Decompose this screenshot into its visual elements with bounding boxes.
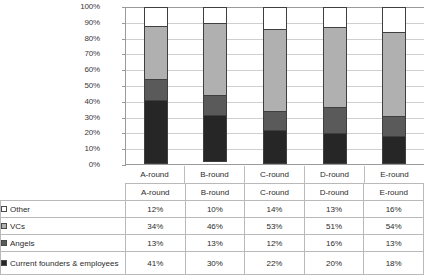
table-header-corner (1, 184, 126, 201)
table-header-e-round: E-round (364, 184, 424, 201)
y-axis-tick-0: 0% (72, 165, 100, 173)
x-axis-label-c-round: C-round (245, 166, 305, 183)
table-cell-value: 46% (185, 218, 245, 235)
bar-segment[interactable] (382, 136, 406, 164)
data-table: A-roundB-roundC-roundD-roundE-roundOther… (0, 183, 424, 275)
legend-swatch-icon (1, 260, 7, 266)
y-axis-tick-40: 40% (72, 102, 100, 110)
y-axis-tick-100: 100% (72, 7, 100, 15)
stacked-bar[interactable] (263, 7, 287, 164)
legend-label-text: Other (10, 205, 30, 214)
bar-segment[interactable] (382, 116, 406, 136)
table-cell-value: 51% (304, 218, 364, 235)
table-cell-value: 12% (245, 235, 305, 252)
y-axis-tick-60: 60% (72, 70, 100, 78)
x-axis-label-b-round: B-round (185, 166, 245, 183)
legend-row-label: Other (1, 201, 126, 218)
bar-segment[interactable] (382, 32, 406, 116)
bar-segment[interactable] (203, 115, 227, 162)
table-cell-value: 41% (126, 252, 186, 275)
bar-segment[interactable] (382, 7, 406, 32)
x-axis-label-d-round: D-round (305, 166, 365, 183)
x-axis-label-e-round: E-round (365, 166, 424, 183)
table-row: Angels13%13%12%16%13% (1, 235, 424, 252)
bar-slot (245, 7, 305, 164)
bar-slot (305, 7, 365, 164)
table-cell-value: 13% (304, 201, 364, 218)
bar-segment[interactable] (263, 130, 287, 164)
bar-series-container (126, 7, 424, 164)
table-header-c-round: C-round (245, 184, 305, 201)
bar-segment[interactable] (144, 26, 168, 79)
y-axis-tick-50: 50% (72, 86, 100, 94)
table-cell-value: 13% (185, 235, 245, 252)
stacked-bar[interactable] (382, 7, 406, 164)
bar-slot (126, 7, 186, 164)
legend-swatch-icon (1, 223, 7, 229)
bar-segment[interactable] (323, 27, 347, 107)
bar-segment[interactable] (323, 107, 347, 132)
table-cell-value: 53% (245, 218, 305, 235)
legend-label-text: VCs (10, 222, 25, 231)
legend-row-label: Current founders & employees (1, 252, 126, 275)
y-axis-tick-90: 90% (72, 23, 100, 31)
legend-row-label: Angels (1, 235, 126, 252)
table-cell-value: 18% (364, 252, 424, 275)
table-row: Other12%10%14%13%16% (1, 201, 424, 218)
legend-swatch-icon (1, 240, 7, 246)
bar-segment[interactable] (144, 7, 168, 26)
y-axis-tick-70: 70% (72, 54, 100, 62)
plot-area (125, 7, 424, 165)
table-header-a-round: A-round (126, 184, 186, 201)
bar-segment[interactable] (323, 133, 347, 164)
stacked-bar[interactable] (144, 7, 168, 164)
table-cell-value: 22% (245, 252, 305, 275)
table-cell-value: 10% (185, 201, 245, 218)
legend-row-label: VCs (1, 218, 126, 235)
table-cell-value: 34% (126, 218, 186, 235)
y-axis-tick-10: 10% (72, 149, 100, 157)
table-cell-value: 14% (245, 201, 305, 218)
bar-segment[interactable] (203, 7, 227, 23)
table-cell-value: 20% (304, 252, 364, 275)
table-cell-value: 16% (304, 235, 364, 252)
table-header-d-round: D-round (304, 184, 364, 201)
bar-segment[interactable] (144, 100, 168, 164)
table-row: VCs34%46%53%51%54% (1, 218, 424, 235)
bar-segment[interactable] (263, 111, 287, 130)
table-cell-value: 30% (185, 252, 245, 275)
bar-segment[interactable] (263, 29, 287, 111)
stacked-bar[interactable] (203, 7, 227, 164)
bar-segment[interactable] (203, 23, 227, 95)
bar-segment[interactable] (144, 79, 168, 99)
legend-label-text: Current founders & employees (10, 259, 119, 268)
y-axis-tick-20: 20% (72, 133, 100, 141)
x-axis-label-a-round: A-round (125, 166, 185, 183)
table-cell-value: 12% (126, 201, 186, 218)
legend-swatch-icon (1, 206, 7, 212)
plot-wrapper: 100% 90% 80% 70% 60% 50% 40% 30% 20% 10%… (0, 0, 432, 185)
bar-segment[interactable] (323, 7, 347, 27)
table-cell-value: 54% (364, 218, 424, 235)
x-axis-category-row: A-roundB-roundC-roundD-roundE-round (125, 166, 424, 183)
bar-segment[interactable] (203, 95, 227, 115)
stacked-bar[interactable] (323, 7, 347, 164)
bar-slot (364, 7, 424, 164)
table-cell-value: 13% (364, 235, 424, 252)
y-axis-tick-80: 80% (72, 39, 100, 47)
table-header-row: A-roundB-roundC-roundD-roundE-round (1, 184, 424, 201)
table-cell-value: 16% (364, 201, 424, 218)
legend-label-text: Angels (10, 239, 34, 248)
bar-slot (186, 7, 246, 164)
y-axis-tick-30: 30% (72, 118, 100, 126)
table-row: Current founders & employees41%30%22%20%… (1, 252, 424, 275)
table-cell-value: 13% (126, 235, 186, 252)
bar-segment[interactable] (263, 7, 287, 29)
table-header-b-round: B-round (185, 184, 245, 201)
